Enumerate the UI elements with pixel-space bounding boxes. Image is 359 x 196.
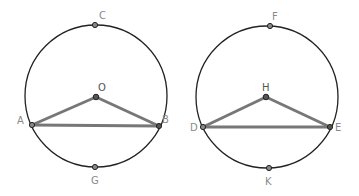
figure-left: C O A B G <box>17 10 169 186</box>
point-f[interactable] <box>267 23 272 28</box>
segment-oa <box>32 97 96 125</box>
point-a[interactable] <box>29 122 34 127</box>
point-h[interactable] <box>263 94 269 100</box>
point-c[interactable] <box>92 22 97 27</box>
figure-right: F H D E K <box>190 11 341 187</box>
point-b[interactable] <box>156 123 161 128</box>
label-k: K <box>265 176 272 187</box>
label-o: O <box>98 82 106 93</box>
label-h: H <box>262 82 270 93</box>
segment-ob <box>96 97 159 126</box>
point-k[interactable] <box>266 165 271 170</box>
label-a: A <box>17 115 24 126</box>
point-g[interactable] <box>92 164 97 169</box>
label-e: E <box>335 122 341 133</box>
label-d: D <box>190 122 198 133</box>
label-c: C <box>99 10 106 21</box>
label-f: F <box>272 11 278 22</box>
point-e[interactable] <box>327 124 332 129</box>
diagram-canvas: C O A B G F H D E K <box>0 0 359 196</box>
segment-hd <box>203 97 266 127</box>
point-o[interactable] <box>93 94 99 100</box>
label-g: G <box>91 175 99 186</box>
point-d[interactable] <box>200 124 205 129</box>
label-b: B <box>162 114 169 125</box>
segment-ab <box>32 125 159 126</box>
segment-he <box>266 97 330 127</box>
